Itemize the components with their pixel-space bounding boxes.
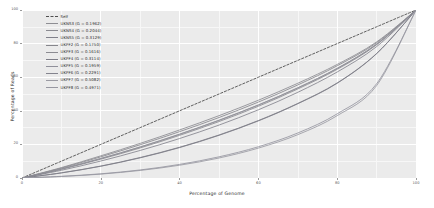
y-tick-mark — [20, 77, 22, 78]
x-tick-mark — [337, 178, 338, 180]
y-tick-mark — [20, 111, 22, 112]
legend-key-ukpf8 — [44, 84, 59, 91]
x-tick-mark — [258, 178, 259, 180]
y-tick-label: 40 — [0, 109, 18, 113]
legend-line-swatch — [46, 73, 58, 74]
x-tick-label: 80 — [325, 182, 349, 186]
legend-label: UKPF5 (G = 0.1959) — [59, 64, 101, 68]
legend-line-swatch — [46, 66, 58, 67]
x-tick-label: 40 — [168, 182, 192, 186]
x-tick-mark — [22, 178, 23, 180]
legend-line-swatch — [46, 30, 58, 31]
x-tick-label: 60 — [246, 182, 270, 186]
x-tick-mark — [101, 178, 102, 180]
x-tick-label: 20 — [89, 182, 113, 186]
legend-key-ukns4 — [44, 27, 59, 34]
legend-line-swatch — [46, 80, 58, 81]
legend-line-swatch — [46, 59, 58, 60]
legend-label: UKPF8 (G = 0.4971) — [59, 86, 101, 90]
legend-item[interactable]: UKPF2 (G = 0.1750) — [44, 41, 101, 48]
legend-label: UKNS4 (G = 0.2044) — [59, 29, 101, 33]
y-tick-mark — [20, 10, 22, 11]
legend-line-swatch — [46, 23, 58, 24]
y-tick-mark — [20, 43, 22, 44]
legend-label: UKPF4 (G = 0.3114) — [59, 57, 101, 61]
legend-label: Self — [59, 15, 68, 19]
y-axis-title: Percentage of Reads — [10, 47, 15, 147]
legend-item[interactable]: UKNS3 (G = 0.1962) — [44, 20, 101, 27]
legend-item[interactable]: UKNS5 (G = 0.3129) — [44, 34, 101, 41]
legend-item[interactable]: UKNS4 (G = 0.2044) — [44, 27, 101, 34]
x-axis-title: Percentage of Genome — [0, 191, 434, 196]
legend: SelfUKNS3 (G = 0.1962)UKNS4 (G = 0.2044)… — [44, 13, 101, 91]
x-tick-mark — [416, 178, 417, 180]
y-tick-label: 100 — [0, 8, 18, 12]
y-tick-mark — [20, 178, 22, 179]
legend-line-swatch — [46, 45, 58, 46]
legend-key-ukpf6 — [44, 70, 59, 77]
legend-label: UKNS5 (G = 0.3129) — [59, 36, 101, 40]
legend-key-ukns3 — [44, 20, 59, 27]
legend-item[interactable]: UKPF3 (G = 0.1616) — [44, 48, 101, 55]
legend-line-swatch — [46, 16, 58, 17]
legend-line-swatch — [46, 52, 58, 53]
legend-label: UKPF7 (G = 0.5082) — [59, 78, 101, 82]
legend-item[interactable]: UKPF4 (G = 0.3114) — [44, 56, 101, 63]
legend-key-ukpf4 — [44, 56, 59, 63]
y-tick-label: 20 — [0, 142, 18, 146]
legend-label: UKNS3 (G = 0.1962) — [59, 22, 101, 26]
y-tick-label: 0 — [0, 176, 18, 180]
x-tick-label: 100 — [404, 182, 428, 186]
legend-item[interactable]: UKPF5 (G = 0.1959) — [44, 63, 101, 70]
legend-item[interactable]: Self — [44, 13, 101, 20]
legend-key-ukpf3 — [44, 48, 59, 55]
legend-line-swatch — [46, 87, 58, 88]
legend-key-ukns5 — [44, 34, 59, 41]
y-tick-label: 60 — [0, 75, 18, 79]
legend-item[interactable]: UKPF7 (G = 0.5082) — [44, 77, 101, 84]
legend-label: UKPF2 (G = 0.1750) — [59, 43, 101, 47]
lorenz-curve-chart: Percentage of Genome Percentage of Reads… — [0, 0, 434, 208]
legend-item[interactable]: UKPF8 (G = 0.4971) — [44, 84, 101, 91]
legend-key-ukpf7 — [44, 77, 59, 84]
legend-label: UKPF6 (G = 0.2291) — [59, 71, 101, 75]
legend-key-ukpf5 — [44, 63, 59, 70]
x-tick-mark — [179, 178, 180, 180]
x-tick-label: 0 — [10, 182, 34, 186]
legend-line-swatch — [46, 37, 58, 38]
y-tick-label: 80 — [0, 42, 18, 46]
legend-item[interactable]: UKPF6 (G = 0.2291) — [44, 70, 101, 77]
legend-key-ukpf2 — [44, 41, 59, 48]
y-tick-mark — [20, 144, 22, 145]
legend-label: UKPF3 (G = 0.1616) — [59, 50, 101, 54]
legend-key-self — [44, 13, 59, 20]
